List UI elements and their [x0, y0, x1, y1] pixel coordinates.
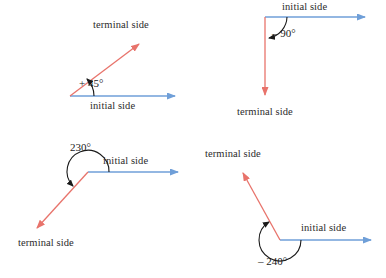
angle-label-2: – 90°	[272, 27, 296, 39]
terminal-side-label-2: terminal side	[237, 106, 293, 117]
angle-label-4: – 240°	[258, 255, 287, 267]
initial-side-label-3: initial side	[103, 155, 148, 166]
angle-label-3: 230°	[70, 141, 91, 153]
initial-side-label-1: initial side	[90, 100, 135, 111]
angle-label-1: + 45°	[79, 77, 103, 89]
angles-figure: terminal side initial side + 45° initial…	[0, 0, 386, 278]
initial-side-label-2: initial side	[282, 1, 327, 12]
diagram-angle-minus-240	[243, 173, 371, 261]
terminal-side-label-4: terminal side	[205, 148, 261, 159]
initial-side-label-4: initial side	[301, 222, 346, 233]
terminal-side-label-3: terminal side	[18, 237, 74, 248]
terminal-side-ray-3	[37, 172, 88, 228]
terminal-side-label-1: terminal side	[93, 19, 149, 30]
